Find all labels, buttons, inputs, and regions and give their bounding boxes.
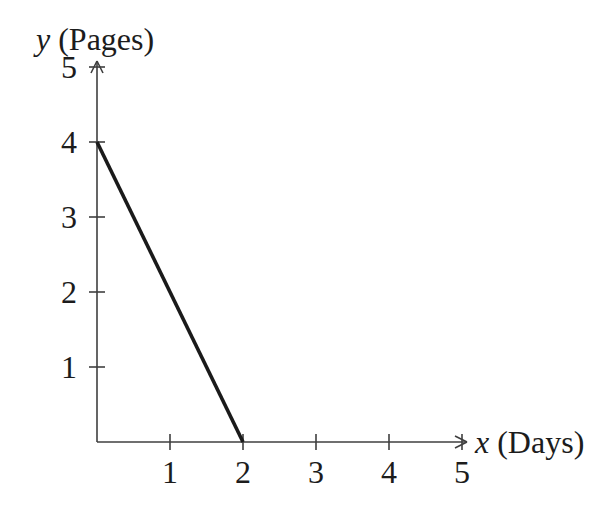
y-tick-label-4: 4 xyxy=(61,124,77,160)
y-tick-label-2: 2 xyxy=(61,274,77,310)
y-tick-label-1: 1 xyxy=(61,349,77,385)
x-tick-label-4: 4 xyxy=(381,454,397,490)
x-tick-label-2: 2 xyxy=(235,454,251,490)
x-axis-title: x (Days) xyxy=(474,424,584,460)
line-graph-figure: 1234512345x (Days)y (Pages) xyxy=(0,0,601,513)
x-tick-label-1: 1 xyxy=(162,454,178,490)
x-tick-label-3: 3 xyxy=(308,454,324,490)
chart-canvas: 1234512345x (Days)y (Pages) xyxy=(0,0,601,513)
y-axis-title: y (Pages) xyxy=(33,21,154,57)
x-tick-label-5: 5 xyxy=(454,454,470,490)
y-tick-label-3: 3 xyxy=(61,199,77,235)
